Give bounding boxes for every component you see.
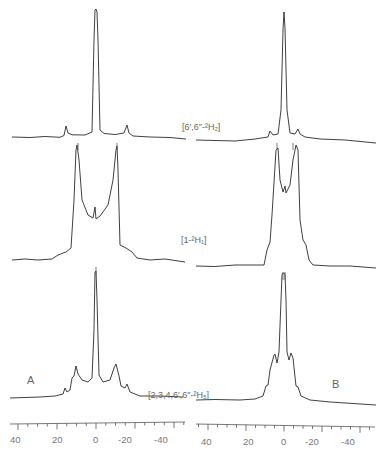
x-axis-a: 40 20 0 -20 -40 <box>10 422 185 445</box>
spectrum-a-middle <box>12 145 185 262</box>
tick-label: 40 <box>201 436 212 447</box>
x-axis-b: 40 20 0 -20 -40 <box>196 424 375 447</box>
tick-label: 20 <box>243 436 254 447</box>
panel-b: B <box>196 12 376 405</box>
label-bottom-spectrum: [2,3,4,6′,6″-²H₅] <box>148 390 209 400</box>
spectrum-b-bottom <box>196 273 376 405</box>
spectrum-a-bottom <box>10 271 183 398</box>
tick-label: 0 <box>93 434 98 445</box>
panel-letter-a: A <box>27 374 35 386</box>
nmr-figure: A B [6′,6″-²H₂] [1-²H₁] [2,3,4,6′,6″-²H₅… <box>0 0 383 454</box>
tick-label: -40 <box>341 436 355 447</box>
tick-label: -20 <box>118 434 132 445</box>
panel-a: A <box>10 9 186 398</box>
panel-letter-b: B <box>332 378 339 390</box>
spectrum-b-middle <box>196 145 376 268</box>
spectrum-a-top <box>12 9 186 139</box>
label-middle-spectrum: [1-²H₁] <box>181 235 207 245</box>
label-top-spectrum: [6′,6″-²H₂] <box>182 122 220 132</box>
spectrum-b-top <box>196 12 376 143</box>
tick-label: -40 <box>154 434 168 445</box>
tick-label: 40 <box>10 434 21 445</box>
tick-label: 20 <box>52 434 63 445</box>
tick-label: 0 <box>281 436 286 447</box>
tick-label: -20 <box>305 436 319 447</box>
